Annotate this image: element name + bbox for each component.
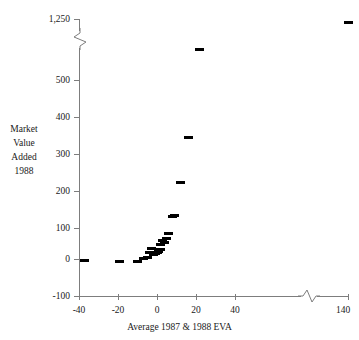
x-tick-label-140: 140 <box>329 305 357 315</box>
data-point <box>156 248 165 251</box>
y-tick-label--100: -100 <box>20 291 70 301</box>
x-tick-label-40: 40 <box>215 305 255 315</box>
x-tick-label--40: -40 <box>59 305 99 315</box>
x-tick-label-0: 0 <box>137 305 177 315</box>
x-axis-line-right <box>317 296 349 297</box>
data-point <box>160 241 169 244</box>
x-tick-140 <box>348 294 349 300</box>
x-axis-line-left <box>79 296 301 297</box>
x-tick-label--20: -20 <box>98 305 138 315</box>
y-tick-label-400: 400 <box>20 112 70 122</box>
x-tick--20 <box>118 294 119 300</box>
data-point <box>176 181 185 184</box>
scatter-chart: 1,250 500 400 300 200 100 0 -100 -40 -20… <box>0 0 359 340</box>
data-point <box>80 259 89 262</box>
chart-top-caption <box>0 0 359 7</box>
data-point <box>133 260 142 263</box>
data-point <box>164 232 173 235</box>
y-axis-title-line-3: Added <box>0 150 48 164</box>
x-tick-0 <box>157 294 158 300</box>
data-point <box>170 214 179 217</box>
data-point <box>115 260 124 263</box>
data-point <box>184 136 193 139</box>
x-tick-20 <box>196 294 197 300</box>
y-tick-label-100: 100 <box>20 223 70 233</box>
y-tick-500 <box>74 80 80 81</box>
y-tick-label-0: 0 <box>20 254 70 264</box>
y-tick-0 <box>74 259 80 260</box>
y-tick-200 <box>74 191 80 192</box>
x-tick-label-20: 20 <box>176 305 216 315</box>
x-axis-title: Average 1987 & 1988 EVA <box>0 322 359 332</box>
data-point <box>162 237 171 240</box>
y-tick-400 <box>74 117 80 118</box>
y-tick-label-200: 200 <box>20 186 70 196</box>
x-tick-40 <box>235 294 236 300</box>
y-tick-300 <box>74 154 80 155</box>
x-tick--40 <box>79 294 80 300</box>
data-point <box>344 21 353 24</box>
y-tick-label-500: 500 <box>20 75 70 85</box>
y-axis-title: Market Value Added 1988 <box>0 122 48 178</box>
data-point <box>195 48 204 51</box>
y-tick-100 <box>74 228 80 229</box>
y-axis-title-line-4: 1988 <box>0 164 48 178</box>
y-tick-1250 <box>74 19 80 20</box>
y-axis-title-line-1: Market <box>0 122 48 136</box>
y-tick-label-1250: 1,250 <box>20 14 70 24</box>
y-axis-title-line-2: Value <box>0 136 48 150</box>
y-axis-break-marker <box>72 28 90 50</box>
